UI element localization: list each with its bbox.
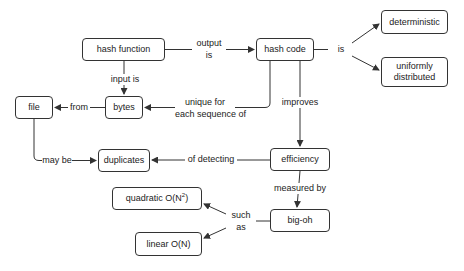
edge-label-measured-by: measured by xyxy=(272,183,328,194)
edge-is-deterministic xyxy=(352,24,379,43)
node-big-oh: big-oh xyxy=(270,209,330,232)
node-hash-function: hash function xyxy=(82,38,165,61)
node-quadratic: quadratic O(N2) xyxy=(112,187,202,210)
edge-such-as-quadratic xyxy=(204,204,226,214)
node-hash-function-label: hash function xyxy=(97,44,151,55)
edge-label-output: output xyxy=(192,38,226,49)
edge-label-is: is xyxy=(331,44,351,55)
edge-is-uniform xyxy=(352,56,379,70)
node-deterministic-label: deterministic xyxy=(389,17,440,28)
edge-label-from: from xyxy=(68,102,90,113)
node-efficiency: efficiency xyxy=(270,148,330,171)
node-uniformly-distributed-label-2: distributed xyxy=(394,72,436,83)
node-hash-code: hash code xyxy=(256,38,314,61)
edge-label-input-is: input is xyxy=(106,74,144,85)
edge-label-such-as: such as xyxy=(226,210,256,233)
node-linear: linear O(N) xyxy=(135,232,202,256)
edge-such-as-linear xyxy=(204,228,226,238)
edge-label-unique-1: unique for xyxy=(175,97,235,108)
node-deterministic: deterministic xyxy=(381,10,448,34)
edge-label-output-is-2: is xyxy=(192,50,226,61)
node-big-oh-label: big-oh xyxy=(287,215,312,226)
edge-label-of-detecting: of detecting xyxy=(185,154,237,165)
node-quadratic-label: quadratic O(N2) xyxy=(126,193,188,204)
node-bytes-label: bytes xyxy=(113,102,135,113)
node-efficiency-label: efficiency xyxy=(281,154,318,165)
node-duplicates-label: duplicates xyxy=(104,155,145,166)
node-file: file xyxy=(15,96,53,119)
edge-label-may-be: may be xyxy=(42,155,72,166)
edge-label-as: as xyxy=(226,222,256,233)
edge-label-improves: improves xyxy=(280,97,320,108)
node-duplicates: duplicates xyxy=(98,149,150,172)
edge-label-such: such xyxy=(226,210,256,221)
edge-label-unique-2: each sequence of xyxy=(175,109,235,120)
node-file-label: file xyxy=(28,102,40,113)
concept-map-diagram: hash function hash code deterministic un… xyxy=(0,0,464,271)
node-uniformly-distributed: uniformly distributed xyxy=(381,57,448,87)
node-hash-code-label: hash code xyxy=(264,44,306,55)
quadratic-suffix: ) xyxy=(185,193,188,203)
edge-label-output-is: output is xyxy=(192,38,226,61)
node-bytes: bytes xyxy=(105,96,143,119)
edge-label-unique-for: unique for each sequence of xyxy=(175,97,235,120)
quadratic-prefix: quadratic O(N xyxy=(126,193,182,203)
node-uniformly-distributed-label-1: uniformly xyxy=(396,61,433,72)
node-linear-label: linear O(N) xyxy=(146,239,190,250)
